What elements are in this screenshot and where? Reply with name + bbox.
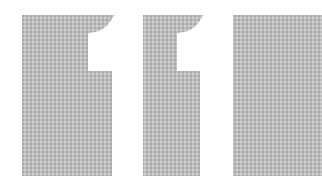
digit-one-right [177,14,233,176]
numeral-eleven-graphic [0,0,322,189]
digit-one-left [88,14,143,176]
